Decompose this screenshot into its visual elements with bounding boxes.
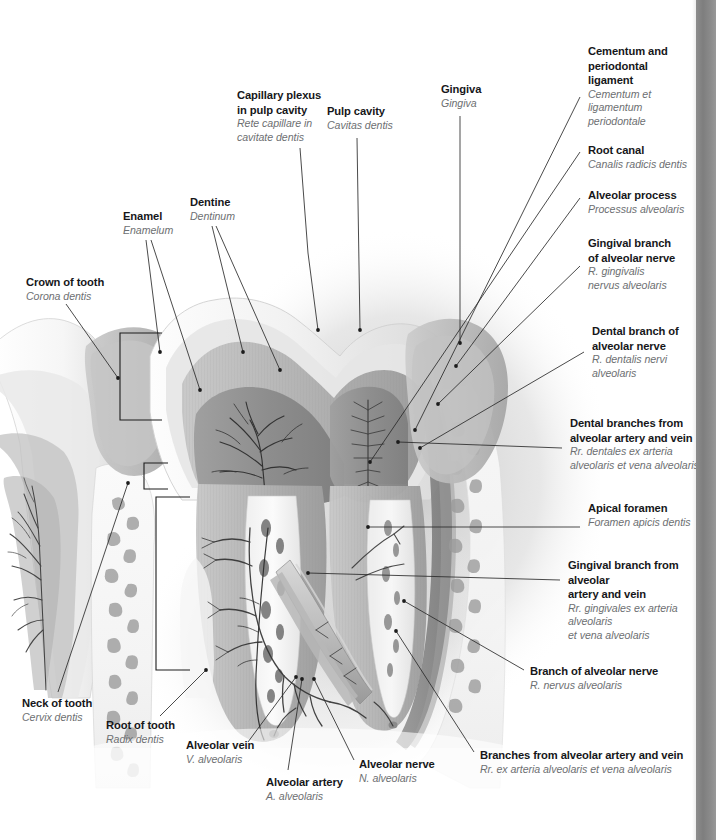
label-alveolar-nerve: Alveolar nerveN. alveolaris — [359, 757, 435, 785]
label-term: Root canal — [588, 143, 687, 158]
label-latin-term: Dentinum — [190, 210, 235, 224]
label-term: Enamel — [123, 209, 173, 224]
label-term: Gingiva — [441, 82, 481, 97]
label-term: Branch of alveolar nerve — [530, 664, 658, 679]
label-term: Alveolar artery — [266, 775, 343, 790]
label-latin-term: R. dentalis nervi alveolaris — [592, 353, 679, 381]
label-latin-term: Rr. ex arteria alveolaris et vena alveol… — [480, 763, 683, 777]
label-term: Neck of tooth — [22, 696, 92, 711]
label-alveolar-vein: Alveolar veinV. alveolaris — [186, 738, 254, 766]
label-term: Root of tooth — [106, 718, 175, 733]
label-latin-term: Processus alveolaris — [588, 203, 684, 217]
label-latin-term: Corona dentis — [26, 290, 104, 304]
label-latin-term: A. alveolaris — [266, 790, 343, 804]
atlas-plate: Capillary plexus in pulp cavityRete capi… — [0, 0, 716, 840]
label-latin-term: Gingiva — [441, 97, 481, 111]
page-edge-bar — [696, 0, 716, 840]
label-latin-term: R. gingivalis nervus alveolaris — [588, 265, 675, 293]
label-latin-term: Cementum et ligamentum periodontale — [588, 88, 668, 129]
label-crown-of-tooth: Crown of toothCorona dentis — [26, 275, 104, 303]
label-latin-term: Rete capillare in cavitate dentis — [237, 117, 321, 145]
label-latin-term: Enamelum — [123, 224, 173, 238]
label-latin-term: Foramen apicis dentis — [588, 516, 691, 530]
label-latin-term: Rr. dentales ex arteria alveolaris et ve… — [570, 445, 699, 473]
label-latin-term: R. nervus alveolaris — [530, 679, 658, 693]
label-branch-of-alveolar-nerve: Branch of alveolar nerveR. nervus alveol… — [530, 664, 658, 692]
label-branches-from-alveolar-artery-and-vein: Branches from alveolar artery and veinRr… — [480, 748, 683, 776]
label-latin-term: Radix dentis — [106, 733, 175, 747]
label-alveolar-process: Alveolar processProcessus alveolaris — [588, 188, 684, 216]
label-latin-term: N. alveolaris — [359, 772, 435, 786]
label-neck-of-tooth: Neck of toothCervix dentis — [22, 696, 92, 724]
label-latin-term: Canalis radicis dentis — [588, 158, 687, 172]
label-term: Crown of tooth — [26, 275, 104, 290]
label-term: Alveolar process — [588, 188, 684, 203]
label-term: Pulp cavity — [327, 104, 393, 119]
label-gingiva: GingivaGingiva — [441, 82, 481, 110]
label-pulp-cavity: Pulp cavityCavitas dentis — [327, 104, 393, 132]
label-root-canal: Root canalCanalis radicis dentis — [588, 143, 687, 171]
label-cementum-and-periodontal-ligament: Cementum and periodontal ligamentCementu… — [588, 44, 668, 129]
label-capillary-plexus-in-pulp-cavity: Capillary plexus in pulp cavityRete capi… — [237, 88, 321, 145]
label-term: Gingival branch of alveolar nerve — [588, 236, 675, 265]
label-enamel: EnamelEnamelum — [123, 209, 173, 237]
label-alveolar-artery: Alveolar arteryA. alveolaris — [266, 775, 343, 803]
label-latin-term: Cavitas dentis — [327, 119, 393, 133]
label-dentine: DentineDentinum — [190, 195, 235, 223]
label-dental-branch-of-alveolar-nerve: Dental branch of alveolar nerveR. dental… — [592, 324, 679, 381]
label-root-of-tooth: Root of toothRadix dentis — [106, 718, 175, 746]
label-term: Capillary plexus in pulp cavity — [237, 88, 321, 117]
label-term: Alveolar vein — [186, 738, 254, 753]
label-dental-branches-from-alveolar-artery-and-vein: Dental branches from alveolar artery and… — [570, 416, 699, 473]
label-gingival-branch-of-alveolar-nerve: Gingival branch of alveolar nerveR. ging… — [588, 236, 675, 293]
label-term: Cementum and periodontal ligament — [588, 44, 668, 88]
label-term: Branches from alveolar artery and vein — [480, 748, 683, 763]
label-latin-term: V. alveolaris — [186, 753, 254, 767]
label-latin-term: Cervix dentis — [22, 711, 92, 725]
label-term: Dentine — [190, 195, 235, 210]
label-apical-foramen: Apical foramenForamen apicis dentis — [588, 501, 691, 529]
label-term: Apical foramen — [588, 501, 691, 516]
label-term: Alveolar nerve — [359, 757, 435, 772]
label-term: Dental branch of alveolar nerve — [592, 324, 679, 353]
label-term: Dental branches from alveolar artery and… — [570, 416, 699, 445]
